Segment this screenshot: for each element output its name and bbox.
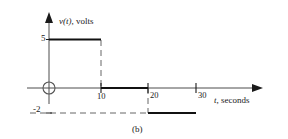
y-axis-arrowhead <box>45 12 53 23</box>
x-axis-label-units: , seconds <box>217 95 250 105</box>
x-axis-label: t, seconds <box>214 96 250 105</box>
x-tick-label-10: 10 <box>97 92 106 101</box>
figure-caption: (b) <box>132 125 143 134</box>
x-tick-label-30: 30 <box>198 91 207 100</box>
y-axis-label-units: , volts <box>72 16 94 26</box>
waveform-plot <box>0 0 288 139</box>
figure-panel: v(t), volts 5 -2 10 20 30 t, seconds (b) <box>0 0 288 139</box>
y-axis-label-arg: (t) <box>63 16 72 26</box>
x-tick-label-20: 20 <box>150 91 159 100</box>
y-axis-label: v(t), volts <box>59 17 94 26</box>
x-axis-arrowhead <box>252 84 263 92</box>
y-tick-label-5: 5 <box>41 34 46 43</box>
y-tick-label-neg2: -2 <box>33 105 41 114</box>
